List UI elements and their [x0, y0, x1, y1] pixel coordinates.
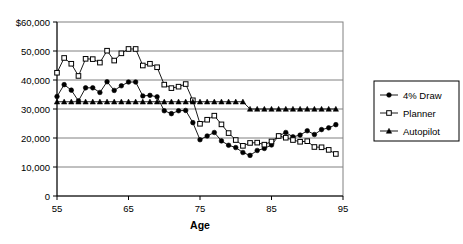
data-point-marker [169, 86, 174, 91]
data-point-marker [326, 148, 331, 153]
data-point-marker [176, 108, 181, 113]
data-point-marker [248, 153, 253, 158]
x-axis-tick-label: 85 [266, 203, 277, 214]
data-point-marker [126, 47, 131, 52]
y-axis-tick-label: 40,000 [21, 75, 50, 86]
data-point-marker [198, 121, 203, 126]
data-point-marker [162, 108, 167, 113]
data-point-marker [69, 88, 74, 93]
x-axis: 5565758595Age [52, 196, 349, 231]
data-point-marker [233, 138, 238, 143]
data-point-marker [248, 141, 253, 146]
data-point-marker [334, 122, 339, 127]
x-axis-tick-label: 65 [123, 203, 134, 214]
data-point-marker [219, 122, 224, 127]
data-point-marker [298, 139, 303, 144]
legend-label: Planner [403, 108, 436, 119]
y-axis-tick-label: 0 [45, 191, 50, 202]
data-point-marker [141, 63, 146, 68]
data-point-marker [212, 113, 217, 118]
data-point-marker [205, 117, 210, 122]
data-point-marker [212, 130, 217, 135]
data-point-marker [176, 84, 181, 89]
data-point-marker [262, 142, 267, 147]
data-point-marker [133, 80, 138, 85]
data-point-marker [105, 48, 110, 53]
data-point-marker [219, 139, 224, 144]
data-point-marker [305, 128, 310, 133]
y-axis-tick-label: 50,000 [21, 46, 50, 57]
legend-label: 4% Draw [403, 90, 442, 101]
data-point-marker [155, 95, 160, 100]
data-point-marker [312, 132, 317, 137]
data-point-marker [269, 139, 274, 144]
data-point-marker [334, 152, 339, 157]
data-point-marker [62, 82, 67, 87]
data-point-marker [148, 61, 153, 66]
data-point-marker [276, 134, 281, 139]
data-point-marker [255, 140, 260, 145]
data-point-marker [126, 80, 131, 85]
data-point-marker [205, 134, 210, 139]
data-point-marker [155, 65, 160, 70]
data-point-marker [169, 111, 174, 116]
data-point-marker [83, 57, 88, 62]
chart-container: 010,00020,00030,00040,00050,000$60,00055… [0, 0, 463, 244]
data-point-marker [226, 131, 231, 136]
x-axis-tick-label: 95 [338, 203, 349, 214]
data-point-marker [112, 58, 117, 63]
data-point-marker [162, 82, 167, 87]
data-point-marker [76, 74, 81, 79]
data-point-marker [112, 88, 117, 93]
data-point-marker [387, 93, 392, 98]
data-point-marker [284, 130, 289, 135]
data-point-marker [226, 143, 231, 148]
data-point-marker [148, 93, 153, 98]
data-point-marker [305, 139, 310, 144]
data-point-marker [83, 86, 88, 91]
data-point-marker [284, 135, 289, 140]
data-point-marker [191, 120, 196, 125]
y-axis-tick-label: 30,000 [21, 104, 50, 115]
data-point-marker [119, 51, 124, 56]
data-point-marker [241, 144, 246, 149]
legend-label: Autopilot [403, 126, 440, 137]
data-point-marker [69, 61, 74, 66]
data-point-marker [133, 47, 138, 52]
legend: 4% DrawPlannerAutopilot [374, 81, 459, 141]
data-point-marker [255, 148, 260, 153]
data-point-marker [183, 82, 188, 87]
data-point-marker [233, 145, 238, 150]
data-point-marker [198, 137, 203, 142]
data-point-marker [55, 94, 60, 99]
data-point-marker [326, 126, 331, 131]
data-point-marker [241, 150, 246, 155]
y-axis-tick-label: 10,000 [21, 162, 50, 173]
y-axis-tick-label: $60,000 [16, 17, 50, 28]
data-point-marker [105, 79, 110, 84]
data-point-marker [319, 127, 324, 132]
retirement-income-line-chart: 010,00020,00030,00040,00050,000$60,00055… [0, 0, 463, 244]
data-point-marker [141, 94, 146, 99]
y-axis-tick-label: 20,000 [21, 133, 50, 144]
data-point-marker [183, 108, 188, 113]
data-point-marker [119, 84, 124, 89]
data-point-marker [387, 111, 392, 116]
x-axis-tick-label: 55 [52, 203, 63, 214]
data-point-marker [98, 90, 103, 95]
data-point-marker [55, 70, 60, 75]
data-point-marker [62, 56, 67, 61]
data-point-marker [312, 145, 317, 150]
data-point-marker [291, 138, 296, 143]
data-point-marker [90, 57, 95, 62]
data-point-marker [298, 133, 303, 138]
data-point-marker [90, 86, 95, 91]
data-point-marker [319, 145, 324, 150]
data-point-marker [98, 60, 103, 65]
y-axis: 010,00020,00030,00040,00050,000$60,000 [16, 17, 57, 202]
x-axis-title: Age [190, 219, 210, 231]
x-axis-tick-label: 75 [195, 203, 206, 214]
